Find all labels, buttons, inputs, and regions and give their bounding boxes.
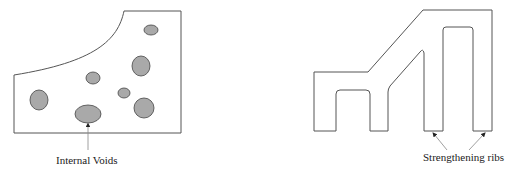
ribbed-casting (314, 10, 492, 150)
void-ellipse (75, 105, 101, 123)
void-ellipse (86, 72, 100, 84)
void-ellipse (30, 90, 48, 110)
void-ellipse (118, 88, 130, 98)
void-ellipse (144, 25, 158, 35)
void-ellipse (134, 98, 154, 118)
internal-voids-label: Internal Voids (56, 154, 118, 166)
diagram-canvas (0, 0, 511, 176)
internal-voids (30, 25, 158, 123)
void-ellipse (132, 56, 150, 76)
strengthening-ribs-label: Strengthening ribs (423, 151, 504, 163)
casting-with-voids (14, 11, 181, 150)
rib-pointer-arrow-right (469, 134, 484, 150)
ribbed-casting-outline (314, 10, 492, 131)
rib-pointer-arrow-left (434, 134, 447, 150)
